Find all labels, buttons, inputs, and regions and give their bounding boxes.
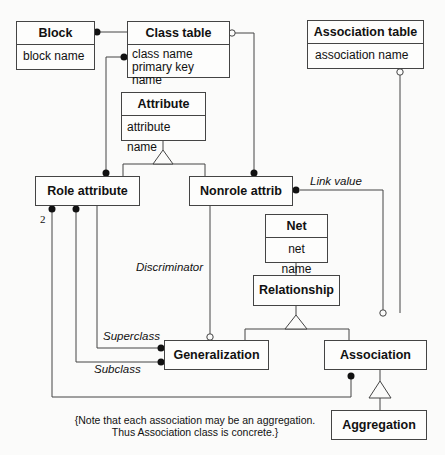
class-association-table-name: Association table	[308, 21, 423, 43]
attribute-primary-key-name: primary key name	[132, 61, 225, 87]
generalization-triangle-relationship	[285, 315, 307, 329]
class-generalization-name: Generalization	[165, 341, 268, 369]
generalization-triangle-association	[369, 381, 391, 398]
note-line-2: Thus Association class is concrete.}	[60, 426, 330, 438]
note-line-1: {Note that each association may be an ag…	[60, 414, 330, 426]
class-attribute-name: Attribute	[122, 93, 205, 115]
class-generalization: Generalization	[164, 340, 269, 370]
multiplicity-2: 2	[40, 213, 46, 225]
class-class-table-name: Class table	[128, 22, 229, 44]
class-net: Net net name	[265, 214, 328, 263]
class-association-name: Association	[325, 341, 426, 369]
class-class-table-attributes: class name primary key name	[128, 44, 229, 90]
class-role-attribute: Role attribute	[35, 176, 140, 206]
class-block-attribute: block name	[17, 44, 94, 67]
class-block: Block block name	[16, 21, 95, 70]
class-nonrole-attrib: Nonrole attrib	[189, 176, 293, 206]
class-attribute-attribute: attribute name	[122, 115, 205, 158]
label-discriminator: Discriminator	[136, 261, 203, 273]
class-diagram: Block block name Class table class name …	[0, 0, 445, 455]
class-relationship: Relationship	[253, 275, 340, 306]
class-net-name: Net	[266, 215, 327, 237]
label-subclass: Subclass	[94, 363, 141, 375]
class-association-table-attribute: association name	[308, 43, 423, 66]
class-association: Association	[324, 340, 427, 370]
label-link-value: Link value	[310, 175, 362, 187]
class-role-attribute-name: Role attribute	[36, 177, 139, 205]
class-aggregation-name: Aggregation	[332, 411, 426, 439]
class-aggregation: Aggregation	[331, 410, 427, 440]
class-attribute: Attribute attribute name	[121, 92, 206, 141]
class-block-name: Block	[17, 22, 94, 44]
class-nonrole-attrib-name: Nonrole attrib	[190, 177, 292, 205]
class-relationship-name: Relationship	[254, 276, 339, 305]
class-class-table: Class table class name primary key name	[127, 21, 230, 78]
note-text: {Note that each association may be an ag…	[60, 414, 330, 438]
label-superclass: Superclass	[103, 330, 160, 342]
class-association-table: Association table association name	[307, 20, 424, 69]
class-net-attribute: net name	[266, 237, 327, 280]
